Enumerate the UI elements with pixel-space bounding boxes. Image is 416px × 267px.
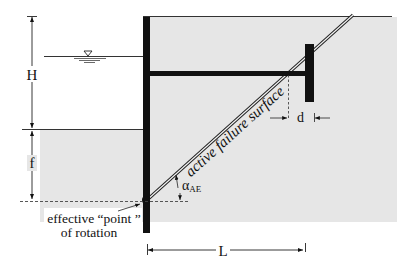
anchor-offset-label: d	[297, 110, 304, 125]
rotation-point-label-line1: effective “point ”	[47, 211, 140, 226]
tie-rod	[148, 71, 306, 76]
rotation-point	[142, 196, 150, 204]
embedment-label: f	[30, 155, 35, 171]
anchor-plate	[305, 44, 314, 102]
height-label: H	[27, 67, 38, 83]
sheet-pile-diagram: H f d L active failure surface αAE effec…	[0, 0, 416, 267]
anchor-distance-label: L	[218, 243, 227, 259]
rotation-point-label-line2: of rotation	[61, 225, 118, 240]
